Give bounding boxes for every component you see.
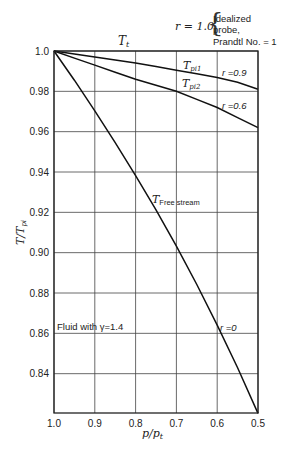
y-tick-label: 0.86 [30,328,50,339]
temperature-ratio-chart: 1.00.980.960.940.920.900.880.860.84 1.00… [0,0,297,454]
tfree-label: TFree stream [152,193,200,207]
y-tick-labels: 1.00.980.960.940.920.900.880.860.84 [30,46,50,380]
tpi1-label: Tpi1 [183,59,202,73]
x-tick-label: 0.6 [210,418,224,429]
y-axis-label: T/Tpi [14,220,28,245]
y-tick-label: 0.96 [30,126,50,137]
tpi2-label: Tpi2 [182,77,201,91]
x-tick-label: 0.8 [129,418,143,429]
y-tick-label: 1.0 [35,46,49,57]
x-axis-label: p/pt [142,427,164,441]
r10-note-1: Idealized [213,13,251,24]
y-tick-label: 0.94 [30,167,50,178]
r10-note-3: Prandtl No. = 1 [213,36,277,47]
r06-label: r =0.6 [222,100,247,111]
y-tick-label: 0.90 [30,247,50,258]
x-tick-label: 0.7 [169,418,183,429]
x-tick-label: 0.9 [88,418,102,429]
r06-curve [54,51,258,128]
y-tick-label: 0.84 [30,368,50,379]
r09-label: r =0.9 [222,67,247,78]
tt-label: Tt [118,34,130,49]
r0-label: r =0 [220,322,237,333]
y-tick-label: 0.88 [30,288,50,299]
y-tick-label: 0.92 [30,207,50,218]
x-tick-label: 1.0 [47,418,61,429]
fluid-label: Fluid with γ=1.4 [57,321,123,332]
y-tick-label: 0.98 [30,86,50,97]
x-tick-label: 0.5 [251,418,265,429]
r10-note-2: probe, [213,24,240,35]
